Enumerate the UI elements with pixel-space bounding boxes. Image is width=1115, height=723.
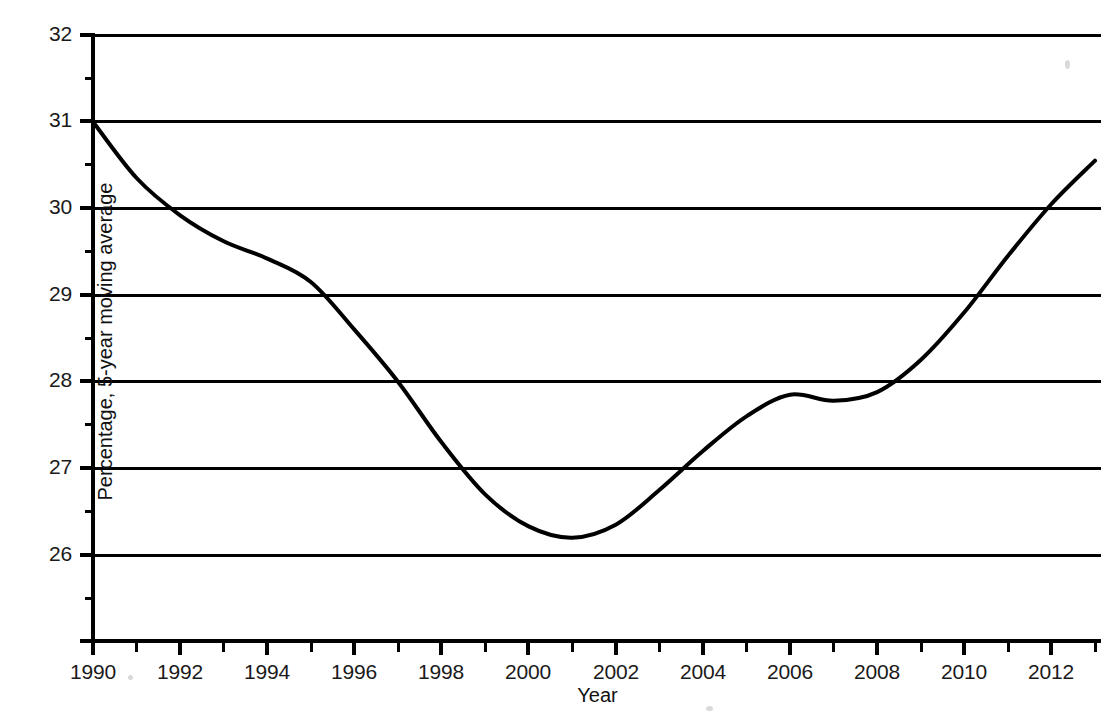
x-tick-label-2008: 2008	[837, 660, 917, 684]
scan-speck	[128, 675, 133, 680]
y-tick-label-26: 26	[28, 542, 72, 566]
x-tick-label-2002: 2002	[576, 660, 656, 684]
x-axis-title: Year	[520, 684, 675, 707]
line-chart-plot	[0, 0, 1115, 723]
y-tick-label-29: 29	[28, 282, 72, 306]
x-tick-label-1994: 1994	[227, 660, 307, 684]
gridlines	[93, 35, 1101, 555]
scan-speck	[706, 706, 713, 711]
chart-container: 32 31 30 29 28 27 26 1990 1992 1994 1996…	[0, 0, 1115, 723]
x-tick-label-2000: 2000	[488, 660, 568, 684]
y-tick-label-27: 27	[28, 455, 72, 479]
x-tick-label-2004: 2004	[663, 660, 743, 684]
x-tick-label-2010: 2010	[924, 660, 1004, 684]
x-tick-label-1992: 1992	[140, 660, 220, 684]
x-tick-label-2012: 2012	[1011, 660, 1091, 684]
y-axis-title: Percentage, 5-year moving average	[94, 177, 117, 507]
data-series-line	[93, 122, 1095, 538]
x-tick-label-1998: 1998	[401, 660, 481, 684]
x-tick-label-2006: 2006	[750, 660, 830, 684]
y-tick-label-30: 30	[28, 195, 72, 219]
y-tick-label-32: 32	[28, 22, 72, 46]
y-tick-label-31: 31	[28, 108, 72, 132]
scan-speck	[1065, 60, 1070, 69]
x-tick-label-1996: 1996	[314, 660, 394, 684]
y-tick-label-28: 28	[28, 368, 72, 392]
x-tick-label-1990: 1990	[53, 660, 133, 684]
